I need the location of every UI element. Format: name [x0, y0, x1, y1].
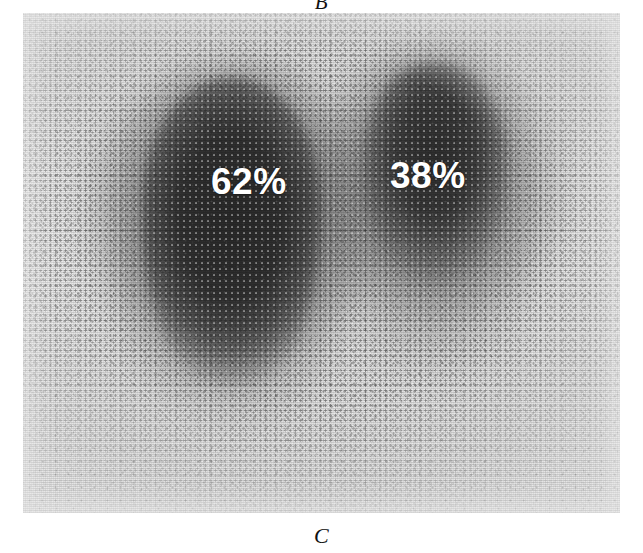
figure-panel-label-top: B — [0, 0, 643, 13]
renal-scan-image: 62% 38% — [23, 13, 620, 513]
left-kidney-uptake — [142, 78, 321, 388]
right-kidney-percentage-label: 38% — [390, 157, 466, 194]
left-kidney-percentage-label: 62% — [211, 163, 287, 200]
figure-panel-label-bottom: C — [0, 521, 643, 553]
